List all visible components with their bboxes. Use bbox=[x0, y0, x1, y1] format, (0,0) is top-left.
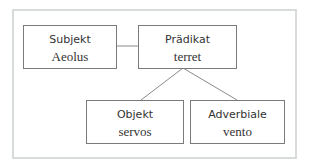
node-adverbiale: Adverbiale vento bbox=[190, 100, 285, 144]
node-word: terret bbox=[139, 49, 236, 64]
node-role-label: Adverbiale bbox=[191, 108, 284, 121]
node-role-label: Subjekt bbox=[24, 33, 116, 46]
node-word: Aeolus bbox=[24, 49, 116, 64]
node-praedikat: Prädikat terret bbox=[138, 25, 237, 69]
node-word: servos bbox=[87, 124, 183, 139]
node-objekt: Objekt servos bbox=[86, 100, 184, 144]
node-role-label: Prädikat bbox=[139, 33, 236, 46]
node-role-label: Objekt bbox=[87, 108, 183, 121]
node-word: vento bbox=[191, 124, 284, 139]
node-subjekt: Subjekt Aeolus bbox=[23, 25, 117, 69]
